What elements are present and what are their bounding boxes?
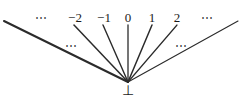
label-minus-one: −1 [97, 11, 111, 24]
label-zero: 0 [125, 11, 132, 24]
lattice-diagram: ⋯−2−1012⋯⋯⋯⊥ [0, 0, 243, 105]
mid-ellipsis-right: ⋯ [175, 40, 189, 52]
edge-two [128, 25, 177, 82]
bottom-symbol: ⊥ [122, 84, 134, 98]
label-minus-two: −2 [68, 11, 82, 24]
edge-minus-one [103, 25, 128, 82]
top-ellipsis-right: ⋯ [201, 12, 215, 24]
mid-ellipsis-left: ⋯ [65, 40, 79, 52]
top-ellipsis-left: ⋯ [35, 12, 49, 24]
label-one: 1 [149, 11, 156, 24]
edge-minus-two [74, 25, 128, 82]
edge-one [128, 25, 152, 82]
label-two: 2 [174, 11, 181, 24]
